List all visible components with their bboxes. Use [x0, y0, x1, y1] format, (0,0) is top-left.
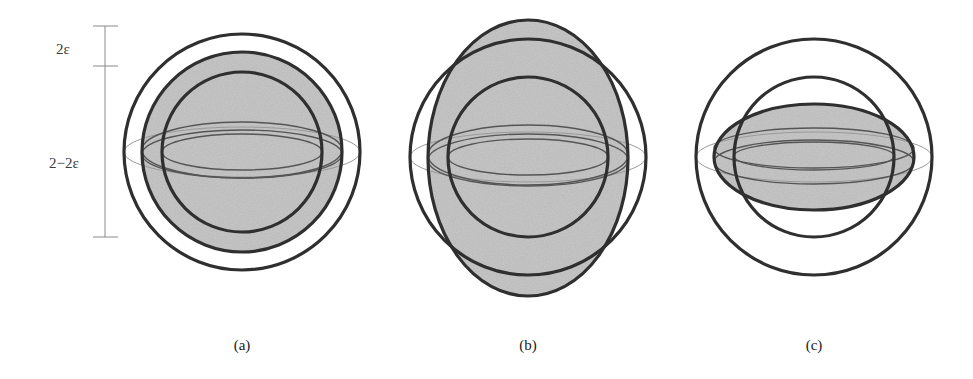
panel-c: (c)	[696, 39, 932, 354]
panel-a: (a)	[124, 34, 360, 354]
figure-three-panel-ellipsoids: 2ε 2−2ε (a) (b) (c)	[0, 0, 973, 379]
figure-svg: 2ε 2−2ε (a) (b) (c)	[0, 0, 973, 379]
scale-bar: 2ε 2−2ε	[49, 26, 118, 237]
panel-a-label: (a)	[234, 337, 251, 354]
panel-c-label: (c)	[806, 337, 823, 354]
scale-label-2-minus-2eps: 2−2ε	[49, 155, 79, 171]
scale-label-2eps: 2ε	[56, 41, 70, 57]
panel-b: (b)	[410, 20, 646, 354]
panel-b-label: (b)	[519, 337, 537, 354]
